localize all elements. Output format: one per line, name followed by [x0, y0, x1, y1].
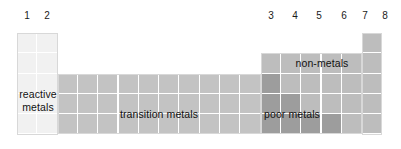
- cell-r3-c11: [220, 74, 240, 94]
- column-number-1: 1: [17, 10, 37, 22]
- column-number-2: 2: [37, 10, 57, 22]
- label-reactive-metals-line1: reactive: [19, 88, 57, 100]
- label-poor-metals: poor metals: [257, 108, 327, 120]
- cell-r3-c4: [78, 74, 98, 94]
- cell-r5-c2: [37, 114, 57, 134]
- cell-r3-c6: [119, 74, 139, 94]
- cell-r1-c2: [37, 33, 57, 53]
- cell-r2-c2: [37, 53, 57, 73]
- cell-r5-c3: [58, 114, 78, 134]
- cell-r5-c18: [362, 114, 382, 134]
- periodic-table-diagram: 1 2 3 4 5 6 7 8: [0, 0, 401, 149]
- cell-r5-c17: [342, 114, 362, 134]
- cell-r3-c8: [159, 74, 179, 94]
- cell-r3-c13: [261, 74, 281, 94]
- cell-r4-c4: [78, 94, 98, 114]
- cell-r5-c4: [78, 114, 98, 134]
- cell-r1-c1: [17, 33, 37, 53]
- cell-r4-c17: [342, 94, 362, 114]
- column-number-8: 8: [375, 10, 395, 22]
- column-number-5: 5: [309, 10, 329, 22]
- column-number-7: 7: [355, 10, 375, 22]
- label-non-metals: non-metals: [287, 57, 357, 69]
- cell-r3-c10: [200, 74, 220, 94]
- label-reactive-metals-line2: metals: [22, 101, 54, 113]
- cell-r4-c11: [220, 94, 240, 114]
- cell-r2-c1: [17, 53, 37, 73]
- label-reactive-metals: reactivemetals: [11, 88, 65, 113]
- label-transition-metals: transition metals: [114, 108, 204, 120]
- cell-r3-c18: [362, 74, 382, 94]
- cell-r1-c18: [362, 33, 382, 53]
- cell-r2-c13: [261, 53, 281, 73]
- cell-r5-c1: [17, 114, 37, 134]
- cell-r3-c16: [322, 74, 342, 94]
- column-number-3: 3: [261, 10, 281, 22]
- column-number-6: 6: [334, 10, 354, 22]
- periodic-table-grid: reactivemetals transition metals poor me…: [17, 33, 383, 135]
- cell-r3-c15: [301, 74, 321, 94]
- column-number-4: 4: [285, 10, 305, 22]
- cell-r3-c12: [240, 74, 260, 94]
- cell-r5-c11: [220, 114, 240, 134]
- cell-r4-c18: [362, 94, 382, 114]
- cell-r3-c7: [139, 74, 159, 94]
- cell-r2-c18: [362, 53, 382, 73]
- cell-r3-c9: [179, 74, 199, 94]
- cell-r3-c5: [98, 74, 118, 94]
- cell-r3-c17: [342, 74, 362, 94]
- cell-r3-c14: [281, 74, 301, 94]
